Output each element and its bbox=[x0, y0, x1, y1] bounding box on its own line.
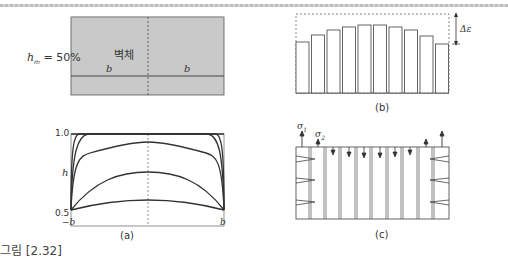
sigma2-label: σ2 bbox=[315, 129, 325, 141]
stress-cracks bbox=[0, 0, 508, 258]
panel-c-label: (c) bbox=[375, 229, 388, 240]
figure-caption: 그림 [2.32] bbox=[0, 241, 62, 258]
sigma1-label: σ1 bbox=[297, 121, 307, 133]
